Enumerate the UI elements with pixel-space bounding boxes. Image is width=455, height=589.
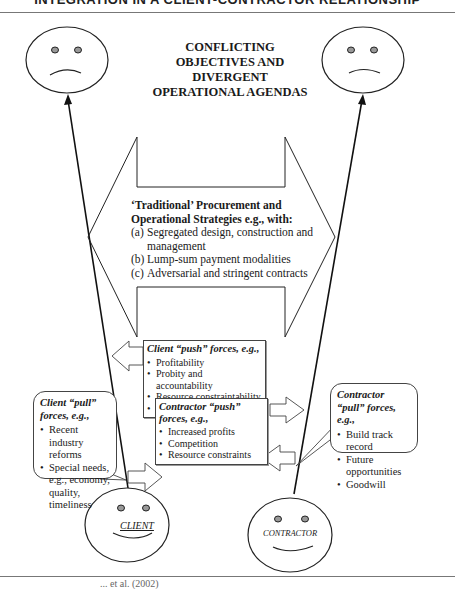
list-item: Special needs, e.g., economy, quality, t… [40,462,110,512]
strategy-item: (c) Adversarial and stringent contracts [131,267,331,281]
strategy-item-text: Lump-sum payment modalities [147,253,291,267]
list-item: Goodwill [337,479,411,492]
strategy-item-label: (c) [131,267,147,281]
list-item: Build track record [337,429,411,454]
strategy-item-text: Adversarial and stringent contracts [147,267,308,281]
sad-face-top-left-icon [26,27,108,93]
contractor-push-arrow-icon [270,397,304,423]
client-pull-heading: Client “pull” forces, e.g., [40,397,110,422]
contractor-face-label: CONTRACTOR [263,528,317,538]
strategy-item-label: (a) [131,226,147,253]
client-push-heading: Client “push” forces, e.g., [147,343,261,355]
strategy-item: (b) Lump-sum payment modalities [131,253,331,267]
footer-citation: ... et al. (2002) [100,578,159,589]
traditional-strategies-block: ‘Traditional’ Procurement and Operationa… [131,199,331,280]
list-item: Resource constraints [159,449,263,461]
client-face-label: CLIENT [120,520,154,531]
bottom-rule [0,576,455,577]
contractor-push-forces-box: Contractor “push” forces, e.g., Increase… [155,398,268,465]
contractor-pull-forces-bubble: Contractor “pull” forces, e.g., Build tr… [330,383,418,453]
list-item: Probity and accountability [147,368,261,391]
strategies-heading: ‘Traditional’ Procurement and Operationa… [131,199,331,226]
client-pull-forces-bubble: Client “pull” forces, e.g., Recent indus… [33,391,117,479]
center-title: CONFLICTING OBJECTIVES AND DIVERGENT OPE… [150,40,310,100]
sad-face-top-right-icon [322,27,404,93]
list-item: Recent industry reforms [40,424,110,462]
strategy-item: (a) Segregated design, construction and … [131,226,331,253]
list-item: Future opportunities [337,454,411,479]
contractor-pull-heading: Contractor “pull” forces, e.g., [337,389,411,427]
list-item: Increased profits [159,426,263,438]
contractor-push-heading: Contractor “push” forces, e.g., [159,401,263,424]
strategy-item-text: Segregated design, construction and mana… [147,226,331,253]
strategy-item-label: (b) [131,253,147,267]
list-item: Competition [159,438,263,450]
list-item: Profitability [147,357,261,369]
client-pull-arrow-icon [128,463,162,491]
client-push-arrow-icon [112,341,143,371]
